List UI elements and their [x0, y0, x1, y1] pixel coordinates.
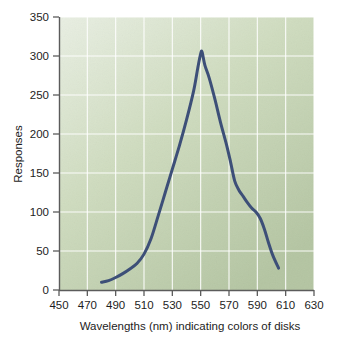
y-axis-tick-marks: [53, 17, 59, 290]
x-tick-label-590: 590: [248, 299, 267, 311]
x-tick-label-570: 570: [219, 299, 238, 311]
y-tick-label-50: 50: [36, 245, 49, 257]
x-tick-label-530: 530: [163, 299, 182, 311]
y-tick-label-300: 300: [30, 50, 49, 62]
x-tick-label-550: 550: [191, 299, 210, 311]
responses-line-chart: 050100150200250300350 450470490510530550…: [0, 0, 338, 347]
x-axis-tick-labels: 450470490510530550570590610630: [49, 299, 323, 311]
x-tick-label-510: 510: [134, 299, 153, 311]
y-tick-label-0: 0: [43, 284, 49, 296]
x-tick-label-450: 450: [49, 299, 68, 311]
plot-area-texture: [59, 17, 314, 290]
y-tick-label-350: 350: [30, 11, 49, 23]
y-tick-label-100: 100: [30, 206, 49, 218]
x-axis-title: Wavelengths (nm) indicating colors of di…: [80, 320, 301, 332]
x-tick-label-630: 630: [304, 299, 323, 311]
x-tick-label-470: 470: [78, 299, 97, 311]
y-tick-label-200: 200: [30, 128, 49, 140]
chart-container: 050100150200250300350 450470490510530550…: [0, 0, 338, 347]
y-tick-label-150: 150: [30, 167, 49, 179]
y-axis-title: Responses: [12, 125, 24, 183]
y-axis-tick-labels: 050100150200250300350: [30, 11, 49, 296]
x-tick-label-490: 490: [106, 299, 125, 311]
x-tick-label-610: 610: [276, 299, 295, 311]
y-tick-label-250: 250: [30, 89, 49, 101]
